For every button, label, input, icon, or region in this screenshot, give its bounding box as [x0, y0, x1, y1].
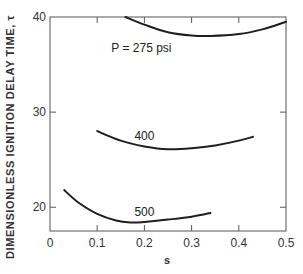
- x-tick-label: 0.3: [183, 236, 200, 250]
- curve-labels: P = 275 psi400500: [111, 41, 171, 219]
- data-curves: [64, 17, 286, 223]
- y-tick-label: 20: [33, 200, 47, 214]
- x-tick-label: 0.2: [136, 236, 153, 250]
- x-tick-label: 0.4: [230, 236, 247, 250]
- curve-400: [97, 131, 253, 149]
- y-tick-label: 30: [33, 105, 47, 119]
- x-axis-label: s: [164, 254, 170, 266]
- x-tick-label: 0.5: [278, 236, 295, 250]
- curve-label: P = 275 psi: [111, 41, 171, 55]
- y-tick-label: 40: [33, 10, 47, 24]
- curve-label: 500: [134, 205, 154, 219]
- chart-plot: 00.10.20.30.40.5 203040 P = 275 psi40050…: [0, 0, 303, 274]
- curve-p-275-psi: [126, 17, 287, 36]
- x-tick-label: 0: [47, 236, 54, 250]
- curve-label: 400: [134, 129, 154, 143]
- x-tick-label: 0.1: [89, 236, 106, 250]
